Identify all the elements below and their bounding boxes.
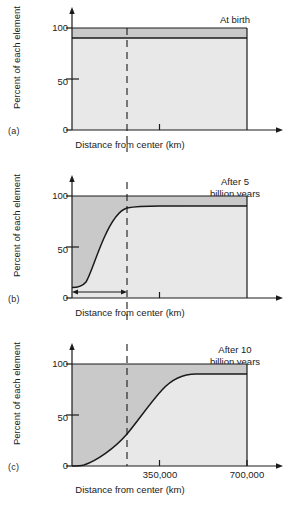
panel-a-hydrogen-area [72, 38, 247, 130]
panel-a-yaxis-arrow [69, 7, 74, 14]
panel-a-helium-area [72, 28, 247, 38]
panel-b-plot [0, 168, 291, 338]
stellar-composition-figure: (a) Percent of each element 100 50 0 At … [0, 0, 291, 506]
panel-c-yaxis-arrow [69, 343, 74, 350]
panel-a-xaxis-arrow [276, 127, 283, 132]
panel-a-plot [0, 0, 291, 170]
panel-c-xaxis-arrow [276, 463, 283, 468]
panel-b: (b) Percent of each element 100 50 0 Aft… [0, 168, 291, 338]
panel-c: (c) Percent of each element 100 50 0 Aft… [0, 336, 291, 506]
panel-b-xaxis-arrow [276, 295, 283, 300]
panel-b-yaxis-arrow [69, 175, 74, 182]
panel-a: (a) Percent of each element 100 50 0 At … [0, 0, 291, 170]
panel-c-plot [0, 336, 291, 506]
